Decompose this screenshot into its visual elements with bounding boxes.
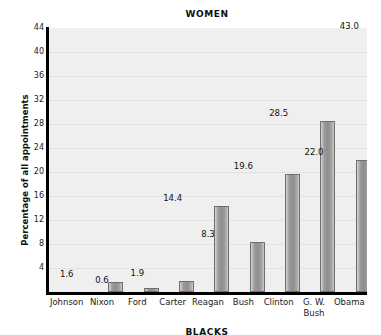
bar-value-label: 0.6	[80, 276, 124, 285]
y-tick-label: 8	[18, 240, 44, 248]
y-axis-tick-labels: 48121620242832364044	[14, 0, 44, 335]
y-tick-label: 28	[18, 120, 44, 128]
x-tick-label: Obama	[319, 297, 379, 308]
bar-value-label: 14.4	[151, 194, 195, 203]
gridline	[49, 76, 367, 77]
bar	[179, 281, 194, 292]
bar-value-label: 1.9	[115, 269, 159, 278]
bar	[356, 160, 368, 292]
bar-value-label: 19.6	[221, 162, 265, 171]
y-tick-label: 24	[18, 144, 44, 152]
bar-value-label: 8.3	[186, 230, 230, 239]
bottom-caption: BLACKS	[47, 327, 367, 335]
x-axis-line	[46, 292, 367, 295]
y-axis-line	[46, 27, 49, 293]
y-tick-label: 16	[18, 192, 44, 200]
y-tick-label: 20	[18, 168, 44, 176]
y-tick-label: 12	[18, 216, 44, 224]
y-tick-label: 40	[18, 48, 44, 56]
y-tick-label: 36	[18, 72, 44, 80]
plot-area	[49, 28, 367, 292]
bar-value-label: 28.5	[257, 109, 301, 118]
bar-value-label: 43.0	[327, 22, 371, 31]
bar	[214, 206, 229, 292]
chart-figure: WOMEN Percentage of all appointments 481…	[0, 0, 381, 335]
chart-title: WOMEN	[47, 9, 367, 19]
y-tick-label: 44	[18, 24, 44, 32]
gridline	[49, 52, 367, 53]
bar	[285, 174, 300, 292]
y-tick-label: 4	[18, 264, 44, 272]
gridline	[49, 100, 367, 101]
bar-value-label: 22.0	[292, 148, 336, 157]
bar	[250, 242, 265, 292]
y-tick-label: 32	[18, 96, 44, 104]
